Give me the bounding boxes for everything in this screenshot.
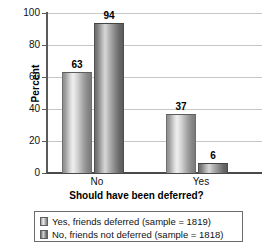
bar-chart: 100 80 60 40 20 0 Percent 63 94 37 6 No …: [0, 0, 273, 249]
bar-value-label: 63: [71, 60, 82, 70]
bar-value-label: 6: [210, 151, 216, 161]
x-axis-title: Should have been deferred?: [0, 190, 273, 201]
x-tick-label-no: No: [77, 176, 117, 187]
legend-item-series1: Yes, friends deferred (sample = 1819): [40, 215, 237, 227]
bar-no-series2: 94: [94, 23, 124, 173]
y-tick-label-100: 100: [12, 8, 40, 18]
plot-area: 63 94 37 6: [47, 13, 262, 173]
legend-label-series2: No, friends not deferred (sample = 1818): [52, 229, 223, 240]
bar-body: [166, 114, 196, 173]
y-axis-title: Percent: [30, 44, 41, 124]
chart-legend: Yes, friends deferred (sample = 1819) No…: [34, 211, 243, 242]
y-tick-label-0: 0: [12, 168, 40, 178]
series-1-swatch-icon: [40, 217, 48, 226]
bar-body: [62, 72, 92, 173]
bar-yes-series1: 37: [166, 114, 196, 173]
legend-item-series2: No, friends not deferred (sample = 1818): [40, 228, 237, 240]
bar-body: [198, 163, 228, 173]
series-2-swatch-icon: [40, 230, 48, 239]
bar-value-label: 37: [175, 102, 186, 112]
y-tick-label-20: 20: [12, 136, 40, 146]
bar-yes-series2: 6: [198, 163, 228, 173]
bar-body: [94, 23, 124, 173]
x-tick-label-yes: Yes: [181, 176, 221, 187]
y-tick-mark-0: [42, 173, 47, 174]
bar-value-label: 94: [103, 11, 114, 21]
bar-no-series1: 63: [62, 72, 92, 173]
legend-label-series1: Yes, friends deferred (sample = 1819): [52, 216, 211, 227]
